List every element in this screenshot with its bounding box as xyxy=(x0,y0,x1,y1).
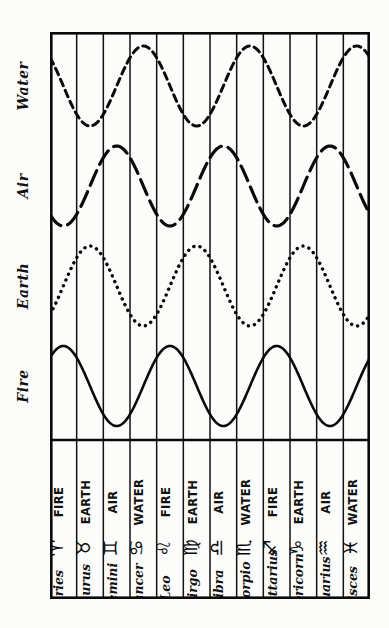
sign-name: Aquarius xyxy=(318,556,333,599)
element-label: AIR xyxy=(319,490,333,513)
aquarius-glyph: ♒ xyxy=(312,539,334,556)
element-label: WATER xyxy=(239,479,253,526)
sign-name: Gemini xyxy=(105,563,120,599)
header-fire: Fire xyxy=(0,346,46,426)
element-label: AIR xyxy=(106,490,120,513)
sign-name: Aries xyxy=(51,570,66,599)
header-air: Air xyxy=(0,146,46,226)
element-label: FIRE xyxy=(266,487,280,517)
pisces-glyph: ♓ xyxy=(339,539,361,556)
header-water: Water xyxy=(0,46,46,126)
element-label: EARTH xyxy=(186,480,200,525)
gemini-glyph: ♊ xyxy=(99,539,121,556)
leo-glyph: ♌ xyxy=(152,539,174,556)
sign-name: Leo xyxy=(158,575,173,599)
virgo-glyph: ♍ xyxy=(179,539,201,556)
cancer-glyph: ♋ xyxy=(125,539,147,556)
element-label: EARTH xyxy=(292,480,306,525)
sign-name: Taurus xyxy=(78,564,93,599)
header-label: Air xyxy=(15,173,31,198)
libra-glyph: ♎ xyxy=(205,539,227,556)
element-label: EARTH xyxy=(79,480,93,525)
taurus-glyph: ♉ xyxy=(72,539,94,556)
header-label: Earth xyxy=(15,263,31,309)
chart-canvas: FIRE♈AriesEARTH♉TaurusAIR♊GeminiWATER♋Ca… xyxy=(50,32,370,599)
element-label: FIRE xyxy=(159,487,173,517)
header-label: Fire xyxy=(15,369,31,403)
header-label: Water xyxy=(15,62,31,111)
zodiac-table-group: FIRE♈AriesEARTH♉TaurusAIR♊GeminiWATER♋Ca… xyxy=(50,479,361,599)
element-label: FIRE xyxy=(52,487,66,517)
sign-name: Pisces xyxy=(345,566,360,599)
element-cycle-chart: FIRE♈AriesEARTH♉TaurusAIR♊GeminiWATER♋Ca… xyxy=(50,32,370,599)
header-earth: Earth xyxy=(0,246,46,326)
element-label: WATER xyxy=(132,479,146,526)
sign-name: Capricorn xyxy=(291,553,306,599)
sign-name: Virgo xyxy=(185,569,200,599)
sign-name: Scorpio xyxy=(238,561,253,599)
sign-name: Libra xyxy=(211,570,226,599)
element-label: WATER xyxy=(346,479,360,526)
sign-name: Sagittarius xyxy=(265,549,280,599)
page-sheet: WaterAirEarthFire FIRE♈AriesEARTH♉Taurus… xyxy=(0,0,389,628)
sign-name: Cancer xyxy=(131,562,146,599)
scorpio-glyph: ♏ xyxy=(232,539,254,556)
element-label: AIR xyxy=(212,490,226,513)
